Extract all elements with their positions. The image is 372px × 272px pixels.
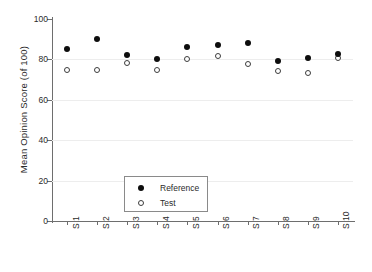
scatter-chart-figure: Mean Opinion Score (of 100) 020406080100…	[0, 0, 372, 272]
legend-marker-reference-icon	[138, 185, 144, 191]
x-axis-tick	[338, 221, 339, 225]
x-axis-tick-label: S 5	[191, 216, 201, 229]
x-axis-tick-label: S 8	[281, 216, 291, 229]
x-axis-tick-label: S 3	[131, 216, 141, 229]
data-point-reference	[245, 40, 251, 46]
x-axis-tick	[278, 221, 279, 225]
x-axis-tick-label: S 7	[251, 216, 261, 229]
y-axis-tick-label: 60	[8, 96, 48, 105]
x-axis-tick	[187, 221, 188, 225]
data-point-reference	[305, 55, 311, 61]
y-axis-tick-label: 0	[8, 217, 48, 226]
data-point-reference	[64, 46, 70, 52]
x-axis-tick	[248, 221, 249, 225]
legend-label-test: Test	[160, 196, 176, 210]
x-axis-tick-label: S 9	[311, 216, 321, 229]
x-axis-tick	[127, 221, 128, 225]
data-point-reference	[215, 42, 221, 48]
data-point-test	[64, 67, 70, 73]
x-axis-line	[50, 221, 355, 222]
gridline	[52, 100, 353, 101]
gridline	[52, 140, 353, 141]
data-point-test	[124, 60, 130, 66]
data-point-reference	[124, 52, 130, 58]
y-axis-tick-label: 100	[8, 15, 48, 24]
data-point-reference	[154, 56, 160, 62]
data-point-test	[215, 53, 221, 59]
y-axis-tick-label: 80	[8, 55, 48, 64]
y-axis-tick-label: 20	[8, 177, 48, 186]
x-axis-tick	[157, 221, 158, 225]
data-point-test	[275, 68, 281, 74]
data-point-test	[184, 56, 190, 62]
data-point-reference	[275, 58, 281, 64]
x-axis-tick-label: S 6	[221, 216, 231, 229]
x-axis-tick-label: S 2	[101, 216, 111, 229]
x-axis-tick-label: S 4	[161, 216, 171, 229]
x-axis-tick-label: S 10	[341, 212, 351, 230]
legend-item-reference: Reference	[125, 181, 209, 195]
x-axis-tick	[218, 221, 219, 225]
x-axis-tick	[97, 221, 98, 225]
legend-item-test: Test	[125, 196, 209, 210]
data-point-test	[245, 61, 251, 67]
data-point-reference	[94, 36, 100, 42]
data-point-test	[94, 67, 100, 73]
legend-label-reference: Reference	[160, 181, 199, 195]
plot-area: 020406080100 S 1S 2S 3S 4S 5S 6S 7S 8S 9…	[52, 19, 353, 221]
x-axis-tick	[308, 221, 309, 225]
y-axis-tick-label: 40	[8, 136, 48, 145]
y-axis-title-container: Mean Opinion Score (of 100)	[0, 0, 30, 232]
x-axis-tick-label: S 1	[71, 216, 81, 229]
data-point-reference	[184, 44, 190, 50]
data-point-test	[154, 67, 160, 73]
data-point-test	[305, 70, 311, 76]
x-axis-tick	[67, 221, 68, 225]
chart-legend: Reference Test	[124, 176, 208, 212]
legend-marker-test-icon	[138, 200, 144, 206]
